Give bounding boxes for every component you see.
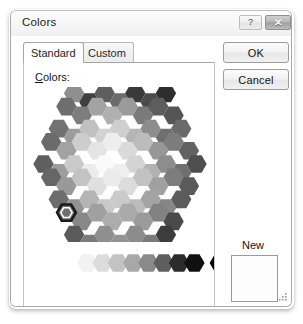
ramp-hex-swatch[interactable]	[184, 254, 204, 272]
help-button[interactable]: ?	[239, 15, 262, 30]
window-title: Colors	[22, 16, 56, 28]
standard-color-hex-wheel[interactable]	[26, 87, 214, 242]
tab-custom[interactable]: Custom	[80, 42, 134, 62]
cancel-button[interactable]: Cancel	[223, 69, 289, 90]
dialog-right-column: OK Cancel New Current	[221, 36, 292, 307]
tab-panel-seam	[25, 62, 81, 64]
cancel-button-label: Cancel	[238, 74, 273, 86]
close-button[interactable]: ✕	[265, 15, 291, 30]
grayscale-ramp-strip[interactable]	[26, 245, 214, 281]
current-color-label: Current	[221, 306, 285, 307]
colors-label-rest: olors:	[43, 71, 70, 83]
tab-standard[interactable]: Standard	[23, 42, 84, 63]
dialog-body: Standard Custom Colors: OK Cancel	[11, 36, 291, 306]
colors-field-label: Colors:	[35, 71, 70, 83]
tab-custom-label: Custom	[88, 47, 126, 59]
extra-hex-swatch[interactable]	[210, 251, 214, 275]
help-icon: ?	[248, 18, 253, 27]
colors-dialog: Colors ? ✕ Standard Custom Colors:	[10, 10, 292, 307]
title-bar[interactable]: Colors ? ✕	[11, 11, 291, 36]
tab-standard-label: Standard	[31, 47, 76, 59]
ok-button-label: OK	[248, 47, 264, 59]
ok-button[interactable]: OK	[223, 42, 289, 63]
new-color-swatch	[232, 256, 277, 301]
colors-label-accel: C	[35, 71, 43, 83]
close-icon: ✕	[274, 18, 282, 28]
color-preview-box	[231, 255, 278, 302]
resize-grip[interactable]	[275, 291, 288, 304]
new-color-label: New	[221, 239, 285, 251]
standard-tab-panel: Colors:	[23, 62, 215, 307]
